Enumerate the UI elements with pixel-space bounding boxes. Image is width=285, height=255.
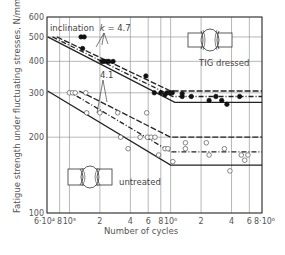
- untreated-data-point: [115, 111, 120, 116]
- y-axis-ticks: 100200300400500600: [29, 13, 44, 218]
- untreated-data-point: [118, 135, 123, 140]
- untreated-data-point: [171, 159, 176, 164]
- x-tick-label: 8·10⁶: [254, 217, 275, 226]
- tig-data-point: [152, 91, 156, 95]
- tig-data-point: [189, 94, 193, 98]
- tig-data-point: [111, 59, 115, 63]
- untreated-data-point: [84, 91, 89, 96]
- x-tick-label: 6: [247, 217, 252, 226]
- x-tick-label: 8: [158, 217, 163, 226]
- x-tick-label: 8: [57, 217, 62, 226]
- tig-data-point: [237, 94, 241, 98]
- y-tick-label: 500: [29, 33, 44, 42]
- y-tick-label: 300: [29, 89, 44, 98]
- tig-data-point: [214, 94, 218, 98]
- untreated-data-point: [138, 135, 143, 140]
- untreated-data-point: [228, 169, 233, 174]
- tig-data-point: [207, 98, 211, 102]
- tig-data-point: [107, 59, 111, 63]
- untreated-data-point: [84, 111, 89, 116]
- x-tick-label: 6: [146, 217, 151, 226]
- y-axis-title: Fatigue strength under fluctuating stres…: [12, 0, 22, 213]
- x-tick-label: 2: [97, 217, 102, 226]
- untreated-data-point: [207, 153, 212, 158]
- x-tick-label: 4: [229, 217, 234, 226]
- tig-dressed-weld-icon: [188, 29, 232, 51]
- untreated-data-point: [246, 153, 251, 158]
- untreated-label: untreated: [119, 177, 161, 187]
- tig-data-point: [159, 91, 163, 95]
- tig-data-point: [144, 74, 148, 78]
- tig-data-point: [180, 94, 184, 98]
- untreated-data-point: [166, 146, 171, 151]
- sn-curve-chart: 100200300400500600 6·10⁴810⁵246810⁶2468·…: [0, 0, 285, 255]
- y-tick-label: 600: [29, 13, 44, 22]
- tig-data-point: [225, 102, 229, 106]
- x-tick-label: 2: [199, 217, 204, 226]
- untreated-data-point: [153, 135, 158, 140]
- untreated-data-point: [98, 111, 103, 116]
- inclination-label: inclination k = 4.7: [50, 23, 131, 33]
- untreated-data-point: [183, 141, 188, 146]
- untreated-slope-label: 4.1: [100, 70, 114, 80]
- untreated-data-point: [156, 153, 161, 158]
- x-axis-ticks: 6·10⁴810⁵246810⁶2468·10⁶: [34, 217, 275, 226]
- untreated-weld-icon: [68, 166, 112, 188]
- untreated-data-point: [73, 91, 78, 96]
- y-tick-label: 200: [29, 133, 44, 142]
- untreated-data-point: [126, 146, 131, 151]
- untreated-data-point: [183, 146, 188, 151]
- x-tick-label: 4: [128, 217, 133, 226]
- tig-data-point: [82, 35, 86, 39]
- untreated-data-point: [222, 146, 227, 151]
- tig-data-point: [170, 91, 174, 95]
- x-tick-label: 10⁶: [164, 217, 177, 226]
- tig-dressed-label: TIG dressed: [198, 58, 249, 68]
- x-tick-label: 10⁵: [63, 217, 76, 226]
- x-tick-label: 6·10⁴: [34, 217, 55, 226]
- x-axis-title: Number of cycles: [104, 226, 179, 236]
- tig-data-point: [80, 46, 84, 50]
- untreated-data-point: [242, 158, 247, 163]
- tig-data-point: [220, 98, 224, 102]
- sn-lines: [48, 37, 262, 165]
- untreated-data-point: [239, 153, 244, 158]
- untreated-data-point: [144, 111, 149, 116]
- y-tick-label: 400: [29, 57, 44, 66]
- untreated-data-point: [204, 141, 209, 146]
